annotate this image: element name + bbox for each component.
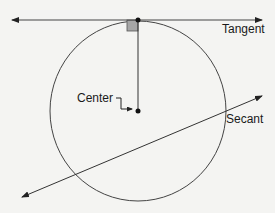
tangent-point <box>136 18 141 23</box>
center-point <box>136 109 141 114</box>
secant-label: Secant <box>226 112 264 126</box>
center-label: Center <box>77 91 113 105</box>
circle-diagram: Tangent Center Secant <box>0 0 275 213</box>
secant-line-left <box>22 147 142 198</box>
tangent-label: Tangent <box>222 22 265 36</box>
center-pointer-arrow <box>116 98 132 109</box>
